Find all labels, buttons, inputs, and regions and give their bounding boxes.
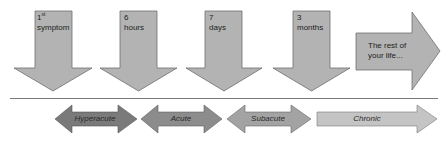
timepoint-label-3: 7 days: [209, 13, 226, 33]
phase-label-acute: Acute: [158, 114, 204, 124]
timepoint-label-4: 3 months: [297, 13, 323, 33]
timepoint-label-1: 1st symptom: [37, 13, 69, 33]
timepoint-unit: symptom: [37, 23, 69, 32]
rest-of-life-line1: The rest of: [368, 41, 406, 50]
timepoint-unit: hours: [124, 23, 144, 32]
timepoint-number: 3: [297, 13, 301, 22]
timepoint-label-2: 6 hours: [124, 13, 144, 33]
timepoint-number: 7: [209, 13, 213, 22]
rest-of-life-line2: your life...: [368, 51, 403, 60]
timepoint-unit: days: [209, 23, 226, 32]
timepoint-number: 6: [124, 13, 128, 22]
phase-label-hyperacute: Hyperacute: [72, 114, 118, 124]
rest-of-life-label: The rest of your life...: [368, 41, 406, 61]
phase-label-chronic: Chronic: [317, 114, 417, 124]
phase-label-subacute: Subacute: [245, 114, 291, 124]
timepoint-superscript: st: [41, 11, 45, 17]
timepoint-unit: months: [297, 23, 323, 32]
